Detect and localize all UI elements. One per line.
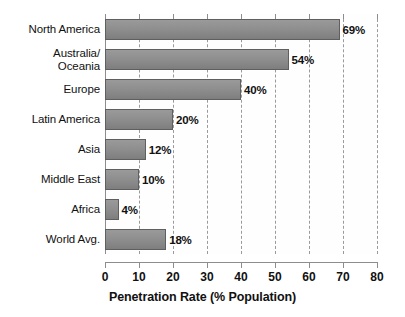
gridline (377, 14, 378, 254)
x-axis-tick-label: 80 (362, 270, 392, 284)
x-axis-tick-label: 20 (158, 270, 188, 284)
category-label: World Avg. (0, 233, 100, 246)
category-label: Latin America (0, 113, 100, 126)
category-label: Middle East (0, 173, 100, 186)
bar (105, 49, 289, 70)
x-axis-tick (139, 262, 140, 268)
top-axis-tick (377, 14, 378, 19)
x-axis-tick-label: 10 (124, 270, 154, 284)
top-axis-tick (343, 14, 344, 19)
bar (105, 169, 139, 190)
category-label: Europe (0, 83, 100, 96)
x-axis-title: Penetration Rate (% Population) (0, 290, 405, 304)
bar (105, 139, 146, 160)
x-axis-tick (173, 262, 174, 268)
bar (105, 19, 340, 40)
bar-value-label: 18% (169, 234, 191, 246)
x-axis-tick (377, 262, 378, 268)
x-axis-tick-label: 30 (192, 270, 222, 284)
bar-value-label: 69% (343, 24, 365, 36)
x-axis-tick-label: 50 (260, 270, 290, 284)
x-axis-tick (105, 262, 106, 268)
bar (105, 199, 119, 220)
category-label: Asia (0, 143, 100, 156)
category-label: Australia/ Oceania (0, 47, 100, 73)
x-axis-tick (275, 262, 276, 268)
category-label-column: North AmericaAustralia/ OceaniaEuropeLat… (0, 14, 100, 254)
bar-value-label: 20% (176, 114, 198, 126)
gridline (309, 14, 310, 254)
bar (105, 79, 241, 100)
bar-value-label: 40% (244, 84, 266, 96)
plot-area (105, 14, 377, 254)
bar-value-label: 12% (149, 144, 171, 156)
bar (105, 229, 166, 250)
bar-value-label: 54% (292, 54, 314, 66)
x-axis-tick (207, 262, 208, 268)
x-axis-tick (309, 262, 310, 268)
category-label: Africa (0, 203, 100, 216)
x-axis-tick (241, 262, 242, 268)
x-axis-tick-label: 40 (226, 270, 256, 284)
category-label: North America (0, 23, 100, 36)
bar-value-label: 10% (142, 174, 164, 186)
chart-figure: North AmericaAustralia/ OceaniaEuropeLat… (0, 0, 405, 317)
x-axis-tick-label: 0 (90, 270, 120, 284)
x-axis-tick-label: 60 (294, 270, 324, 284)
x-axis-tick (343, 262, 344, 268)
gridline (343, 14, 344, 254)
x-axis-tick-label: 70 (328, 270, 358, 284)
bar (105, 109, 173, 130)
bar-value-label: 4% (122, 204, 138, 216)
